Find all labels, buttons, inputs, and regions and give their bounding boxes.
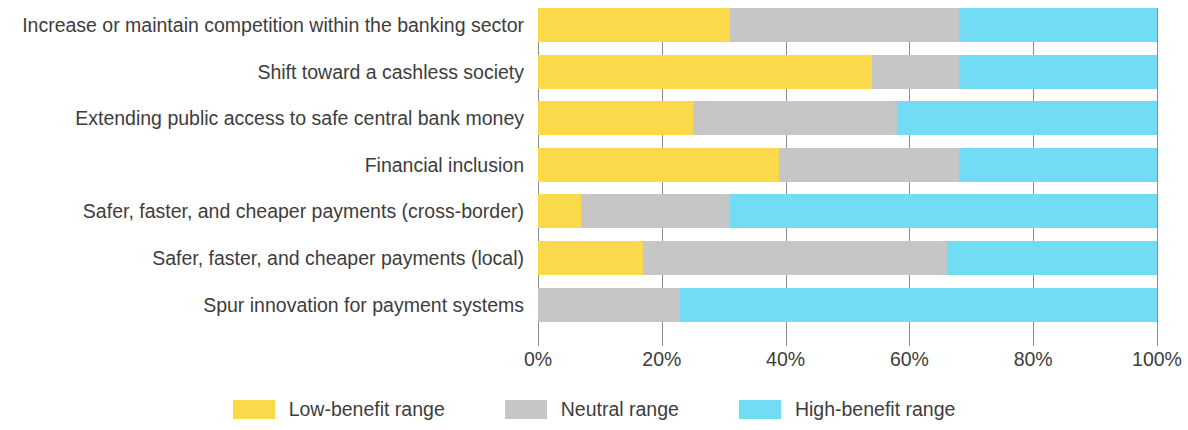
bar-segment-low — [538, 148, 779, 182]
bar-segment-neu — [643, 241, 946, 275]
legend-label: High-benefit range — [795, 398, 955, 421]
bar-segment-high — [730, 194, 1157, 228]
bar-segment-neu — [581, 194, 730, 228]
bar-segment-high — [680, 288, 1157, 322]
category-label: Safer, faster, and cheaper payments (cro… — [0, 194, 524, 228]
bar-segment-high — [897, 101, 1157, 135]
bar-segment-high — [959, 55, 1157, 89]
bar-row — [538, 148, 1157, 182]
bar-segment-neu — [872, 55, 959, 89]
bar-row — [538, 101, 1157, 135]
x-tick-label: 20% — [642, 348, 681, 371]
bar-row — [538, 55, 1157, 89]
bar-row — [538, 288, 1157, 322]
category-label: Shift toward a cashless society — [0, 55, 524, 89]
x-tick-label: 100% — [1132, 348, 1182, 371]
x-tick-label: 40% — [766, 348, 805, 371]
x-tick-label: 60% — [890, 348, 929, 371]
legend-item: High-benefit range — [739, 398, 955, 421]
x-tick-label: 0% — [524, 348, 552, 371]
bar-segment-neu — [538, 288, 680, 322]
legend-label: Low-benefit range — [289, 398, 445, 421]
bar-segment-low — [538, 8, 730, 42]
bar-segment-low — [538, 101, 693, 135]
legend-item: Neutral range — [505, 398, 679, 421]
stacked-bar-chart: Low-benefit rangeNeutral rangeHigh-benef… — [0, 0, 1188, 430]
bar-segment-high — [959, 8, 1157, 42]
bar-segment-neu — [779, 148, 959, 182]
category-label: Increase or maintain competition within … — [0, 8, 524, 42]
x-tick-mark — [662, 334, 663, 346]
legend-swatch-icon — [505, 400, 547, 419]
x-tick-mark — [538, 334, 539, 346]
legend-swatch-icon — [233, 400, 275, 419]
x-axis-ticks — [538, 334, 1157, 346]
x-tick-mark — [909, 334, 910, 346]
bar-segment-low — [538, 55, 872, 89]
bar-segment-neu — [693, 101, 897, 135]
category-label: Safer, faster, and cheaper payments (loc… — [0, 241, 524, 275]
legend-label: Neutral range — [561, 398, 679, 421]
bar-segment-neu — [730, 8, 959, 42]
category-label: Spur innovation for payment systems — [0, 288, 524, 322]
legend-item: Low-benefit range — [233, 398, 445, 421]
category-label: Extending public access to safe central … — [0, 101, 524, 135]
x-tick-label: 80% — [1014, 348, 1053, 371]
chart-legend: Low-benefit rangeNeutral rangeHigh-benef… — [0, 398, 1188, 421]
plot-area — [538, 8, 1157, 334]
category-label: Financial inclusion — [0, 148, 524, 182]
x-tick-mark — [1033, 334, 1034, 346]
legend-swatch-icon — [739, 400, 781, 419]
bar-segment-low — [538, 194, 581, 228]
x-tick-mark — [1157, 334, 1158, 346]
bar-row — [538, 8, 1157, 42]
bar-row — [538, 241, 1157, 275]
x-tick-mark — [786, 334, 787, 346]
bar-segment-low — [538, 241, 643, 275]
bar-segment-high — [959, 148, 1157, 182]
bar-row — [538, 194, 1157, 228]
bar-segment-high — [947, 241, 1157, 275]
gridline-100pct — [1157, 8, 1158, 334]
